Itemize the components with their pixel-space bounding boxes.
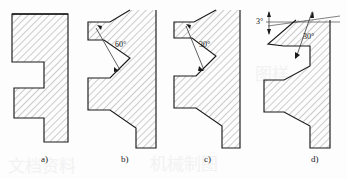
panel-a-square-thread-profile — [0, 0, 90, 160]
panel-c-trapezoidal-thread-profile — [165, 0, 250, 160]
panel-caption-a: a) — [41, 154, 48, 164]
panel-caption-b: b) — [121, 154, 129, 164]
angle-label-30: 30° — [199, 40, 210, 49]
angle-label-3: 3° — [256, 17, 263, 26]
panel-caption-d: d) — [311, 154, 319, 164]
panel-b-v-thread-profile — [80, 0, 165, 160]
arrowhead-3-lower — [267, 29, 271, 35]
angle-label-60: 60° — [115, 40, 126, 49]
angle-label-30-d: 30° — [303, 32, 314, 41]
panel-caption-c: c) — [204, 154, 211, 164]
panel-d-buttress-thread-profile — [255, 0, 347, 160]
arrowhead-3-upper — [267, 11, 271, 17]
thread-profiles-figure — [0, 0, 347, 179]
